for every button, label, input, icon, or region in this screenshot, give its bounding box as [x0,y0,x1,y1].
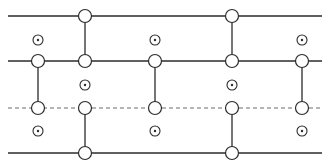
center-dot [154,130,156,132]
dotted-circle-icon [33,35,43,45]
dotted-circle-icon [80,80,90,90]
open-circle-node [226,102,239,115]
open-circle-node [296,55,309,68]
center-dot [231,84,233,86]
center-dot [84,84,86,86]
open-circle-node [79,102,92,115]
dotted-circle-icon [297,126,307,136]
open-circle-node [32,55,45,68]
open-circle-node [79,55,92,68]
open-circle-node [149,55,162,68]
center-dot [37,39,39,41]
open-circle-node [149,102,162,115]
dotted-circle-icon [227,80,237,90]
open-circle-nodes [32,10,309,160]
dotted-circle-icon [297,35,307,45]
open-circle-node [79,10,92,23]
open-circle-node [32,102,45,115]
dotted-circle-icon [33,126,43,136]
center-dot [37,130,39,132]
horizontal-lines [8,16,322,153]
open-circle-node [226,147,239,160]
vertical-links [38,16,302,153]
dotted-circle-nodes [33,35,307,136]
center-dot [301,130,303,132]
open-circle-node [226,10,239,23]
lattice-diagram [0,0,330,168]
dotted-circle-icon [150,126,160,136]
open-circle-node [226,55,239,68]
center-dot [301,39,303,41]
dotted-circle-icon [150,35,160,45]
open-circle-node [79,147,92,160]
open-circle-node [296,102,309,115]
center-dot [154,39,156,41]
